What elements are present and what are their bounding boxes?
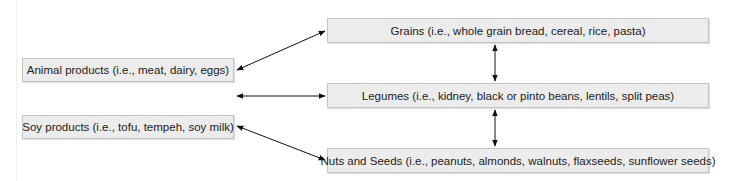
arrow-soy-nuts: [237, 126, 325, 160]
arrow-animal-grains: [237, 31, 325, 70]
connector-arrows: [0, 0, 731, 181]
